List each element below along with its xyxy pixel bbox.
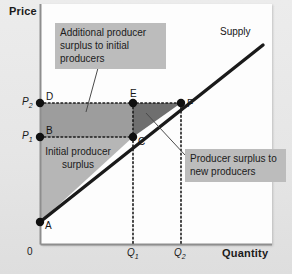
supply-curve-label: Supply	[220, 27, 251, 37]
point-label-e: E	[130, 89, 137, 99]
y-tick-p1-base: P	[22, 130, 29, 141]
x-tick-q2-base: Q	[174, 247, 182, 258]
point-marker-b	[36, 133, 44, 141]
point-marker-f	[177, 99, 185, 107]
y-tick-p1: P1	[22, 131, 33, 143]
x-tick-q1-base: Q	[127, 247, 135, 258]
point-label-a: A	[45, 221, 52, 231]
y-tick-p2-base: P	[22, 96, 29, 107]
point-label-f: F	[187, 99, 193, 109]
y-tick-p1-subscript: 1	[29, 136, 33, 143]
point-label-c: C	[138, 137, 145, 147]
x-tick-q2-subscript: 2	[182, 253, 186, 260]
figure-screenshot: Price Quantity 0 P2 P1 Q1 Q2 A B C D E F…	[0, 0, 292, 274]
y-axis-title: Price	[9, 6, 37, 17]
y-tick-p2-subscript: 2	[29, 102, 33, 109]
point-marker-a	[36, 218, 44, 226]
region-additional-producer-surplus	[40, 103, 133, 137]
point-marker-d	[36, 99, 44, 107]
point-label-d: D	[46, 92, 53, 102]
callout-new-producers-surplus: Producer surplus to new producers	[185, 149, 286, 182]
label-initial-producer-surplus: Initial producer surplus	[45, 145, 111, 171]
x-tick-q1-subscript: 1	[135, 253, 139, 260]
point-marker-e	[129, 99, 137, 107]
region-new-producers-surplus	[133, 103, 181, 137]
x-axis-title: Quantity	[222, 248, 268, 259]
origin-label: 0	[27, 247, 33, 257]
point-marker-c	[129, 133, 137, 141]
x-tick-q1: Q1	[127, 248, 139, 260]
callout-additional-producer-surplus: Additional producer surplus to initial p…	[55, 23, 166, 69]
y-tick-p2: P2	[22, 97, 33, 109]
x-tick-q2: Q2	[174, 248, 186, 260]
point-label-b: B	[46, 126, 53, 136]
